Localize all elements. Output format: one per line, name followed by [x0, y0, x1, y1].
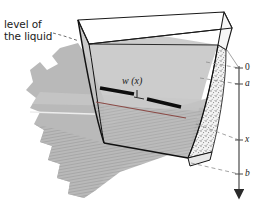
axis-tick-label-b: b [245, 168, 250, 179]
axis-tick-label-zero: 0 [245, 62, 250, 73]
width-function-label: w (x) [122, 75, 142, 86]
leader-to-tick-b [191, 163, 239, 174]
axis-tick-label-x: x [245, 134, 249, 145]
leader-to-tick-zero [227, 50, 239, 68]
level-leader-line [53, 33, 79, 41]
trough-liquid-diagram: level ofthe liquid w (x) 0 a x b [0, 0, 262, 209]
axis-tick-label-a: a [245, 78, 250, 89]
level-of-liquid-line1: level of [4, 18, 42, 30]
level-of-liquid-caption: level ofthe liquid [4, 19, 52, 43]
level-of-liquid-line2: the liquid [4, 30, 52, 42]
